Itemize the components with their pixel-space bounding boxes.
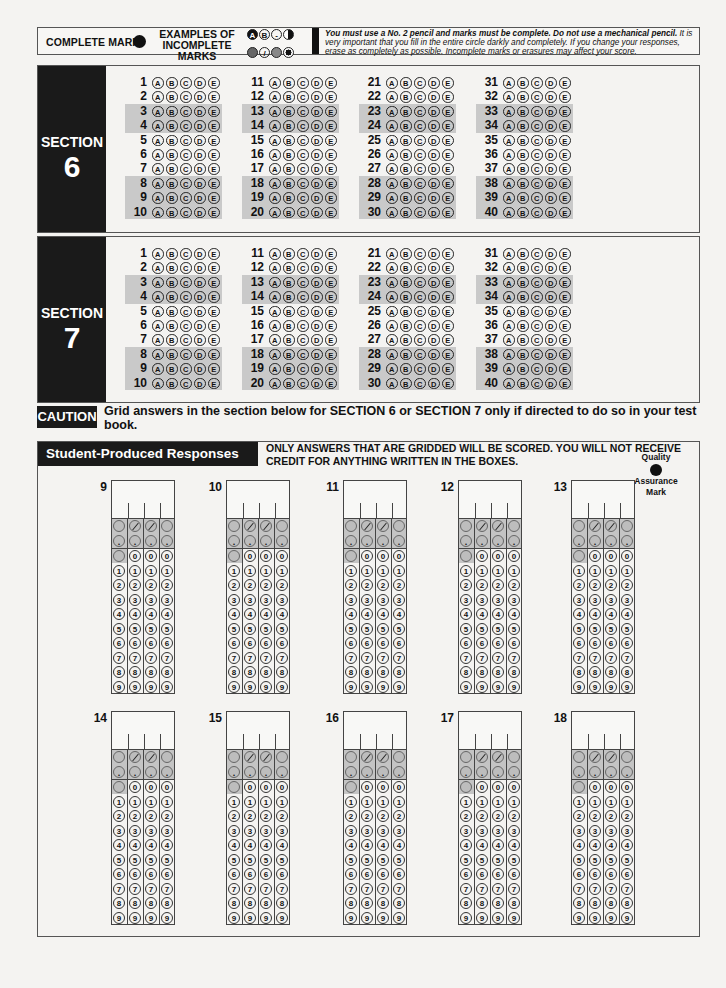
answer-bubble-e[interactable]: E bbox=[442, 192, 454, 204]
answer-bubble-d[interactable]: D bbox=[194, 378, 206, 390]
digit-bubble-8[interactable]: 8 bbox=[129, 666, 141, 678]
answer-bubble-c[interactable]: C bbox=[414, 363, 426, 375]
answer-bubble-c[interactable]: C bbox=[180, 320, 192, 332]
answer-bubble-d[interactable]: D bbox=[194, 207, 206, 219]
digit-bubble-3[interactable]: 3 bbox=[589, 594, 601, 606]
answer-bubble-c[interactable]: C bbox=[531, 106, 543, 118]
digit-bubble-2[interactable]: 2 bbox=[377, 579, 389, 591]
answer-bubble-e[interactable]: E bbox=[325, 262, 337, 274]
digit-bubble-8[interactable]: 8 bbox=[460, 666, 472, 678]
answer-bubble-c[interactable]: C bbox=[531, 349, 543, 361]
answer-bubble-d[interactable]: D bbox=[428, 192, 440, 204]
answer-bubble-e[interactable]: E bbox=[325, 334, 337, 346]
answer-bubble-b[interactable]: B bbox=[283, 277, 295, 289]
answer-bubble-e[interactable]: E bbox=[442, 334, 454, 346]
digit-bubble-0[interactable]: 0 bbox=[605, 781, 617, 793]
digit-bubble-3[interactable]: 3 bbox=[476, 594, 488, 606]
digit-bubble-6[interactable]: 6 bbox=[276, 868, 288, 880]
fraction-bar-bubble[interactable] bbox=[476, 520, 488, 532]
answer-bubble-b[interactable]: B bbox=[283, 163, 295, 175]
digit-bubble-7[interactable]: 7 bbox=[605, 652, 617, 664]
answer-bubble-d[interactable]: D bbox=[311, 106, 323, 118]
digit-bubble-3[interactable]: 3 bbox=[361, 594, 373, 606]
answer-bubble-c[interactable]: C bbox=[180, 135, 192, 147]
digit-bubble-8[interactable]: 8 bbox=[113, 666, 125, 678]
answer-bubble-b[interactable]: B bbox=[517, 178, 529, 190]
answer-bubble-a[interactable]: A bbox=[386, 106, 398, 118]
digit-bubble-2[interactable]: 2 bbox=[276, 579, 288, 591]
answer-bubble-b[interactable]: B bbox=[166, 334, 178, 346]
digit-bubble-7[interactable]: 7 bbox=[492, 652, 504, 664]
digit-bubble-9[interactable]: 9 bbox=[605, 681, 617, 693]
digit-bubble-9[interactable]: 9 bbox=[361, 681, 373, 693]
answer-bubble-b[interactable]: B bbox=[166, 192, 178, 204]
answer-bubble-e[interactable]: E bbox=[442, 135, 454, 147]
answer-bubble-a[interactable]: A bbox=[503, 363, 515, 375]
digit-bubble-5[interactable]: 5 bbox=[605, 623, 617, 635]
answer-bubble-d[interactable]: D bbox=[545, 120, 557, 132]
digit-bubble-5[interactable]: 5 bbox=[244, 854, 256, 866]
answer-bubble-a[interactable]: A bbox=[269, 334, 281, 346]
fraction-bar-bubble[interactable] bbox=[260, 520, 272, 532]
fraction-bar-bubble[interactable] bbox=[476, 751, 488, 763]
digit-bubble-6[interactable]: 6 bbox=[492, 637, 504, 649]
digit-bubble-6[interactable]: 6 bbox=[276, 637, 288, 649]
digit-bubble-7[interactable]: 7 bbox=[377, 652, 389, 664]
answer-bubble-c[interactable]: C bbox=[180, 306, 192, 318]
digit-bubble-0[interactable]: 0 bbox=[377, 550, 389, 562]
answer-bubble-e[interactable]: E bbox=[325, 363, 337, 375]
answer-bubble-d[interactable]: D bbox=[545, 207, 557, 219]
digit-bubble-7[interactable]: 7 bbox=[228, 652, 240, 664]
digit-bubble-8[interactable]: 8 bbox=[276, 666, 288, 678]
answer-write-box[interactable] bbox=[343, 480, 407, 518]
fraction-bar-bubble[interactable] bbox=[145, 751, 157, 763]
digit-bubble-3[interactable]: 3 bbox=[129, 594, 141, 606]
digit-bubble-5[interactable]: 5 bbox=[573, 854, 585, 866]
answer-bubble-d[interactable]: D bbox=[194, 262, 206, 274]
digit-bubble-7[interactable]: 7 bbox=[621, 652, 633, 664]
digit-bubble-6[interactable]: 6 bbox=[361, 868, 373, 880]
answer-bubble-c[interactable]: C bbox=[180, 334, 192, 346]
digit-bubble-5[interactable]: 5 bbox=[621, 854, 633, 866]
answer-bubble-a[interactable]: A bbox=[386, 291, 398, 303]
fraction-bar-bubble[interactable] bbox=[605, 520, 617, 532]
digit-bubble-5[interactable]: 5 bbox=[508, 623, 520, 635]
answer-bubble-e[interactable]: E bbox=[559, 207, 571, 219]
digit-bubble-2[interactable]: 2 bbox=[377, 810, 389, 822]
answer-bubble-a[interactable]: A bbox=[386, 91, 398, 103]
digit-bubble-8[interactable]: 8 bbox=[492, 897, 504, 909]
answer-bubble-a[interactable]: A bbox=[503, 192, 515, 204]
answer-bubble-d[interactable]: D bbox=[545, 248, 557, 260]
answer-bubble-b[interactable]: B bbox=[283, 349, 295, 361]
answer-write-box[interactable] bbox=[226, 480, 290, 518]
digit-bubble-6[interactable]: 6 bbox=[161, 637, 173, 649]
answer-bubble-a[interactable]: A bbox=[269, 291, 281, 303]
answer-bubble-b[interactable]: B bbox=[166, 120, 178, 132]
answer-bubble-d[interactable]: D bbox=[428, 163, 440, 175]
decimal-point-bubble[interactable]: . bbox=[393, 766, 405, 778]
answer-bubble-e[interactable]: E bbox=[208, 277, 220, 289]
answer-bubble-c[interactable]: C bbox=[297, 106, 309, 118]
digit-bubble-6[interactable]: 6 bbox=[244, 868, 256, 880]
digit-bubble-0[interactable]: 0 bbox=[492, 550, 504, 562]
digit-bubble-3[interactable]: 3 bbox=[260, 825, 272, 837]
digit-bubble-6[interactable]: 6 bbox=[605, 637, 617, 649]
answer-bubble-e[interactable]: E bbox=[208, 262, 220, 274]
answer-bubble-d[interactable]: D bbox=[545, 320, 557, 332]
answer-bubble-c[interactable]: C bbox=[414, 291, 426, 303]
answer-bubble-e[interactable]: E bbox=[325, 248, 337, 260]
digit-bubble-5[interactable]: 5 bbox=[476, 854, 488, 866]
digit-bubble-3[interactable]: 3 bbox=[161, 594, 173, 606]
answer-bubble-b[interactable]: B bbox=[517, 349, 529, 361]
answer-bubble-a[interactable]: A bbox=[503, 91, 515, 103]
answer-bubble-e[interactable]: E bbox=[559, 248, 571, 260]
digit-bubble-9[interactable]: 9 bbox=[393, 681, 405, 693]
fraction-bar-bubble[interactable] bbox=[361, 520, 373, 532]
decimal-point-bubble[interactable]: . bbox=[476, 766, 488, 778]
digit-bubble-0[interactable]: 0 bbox=[393, 550, 405, 562]
digit-bubble-3[interactable]: 3 bbox=[393, 594, 405, 606]
digit-bubble-4[interactable]: 4 bbox=[260, 608, 272, 620]
digit-bubble-4[interactable]: 4 bbox=[113, 608, 125, 620]
digit-bubble-2[interactable]: 2 bbox=[573, 579, 585, 591]
answer-bubble-a[interactable]: A bbox=[269, 91, 281, 103]
